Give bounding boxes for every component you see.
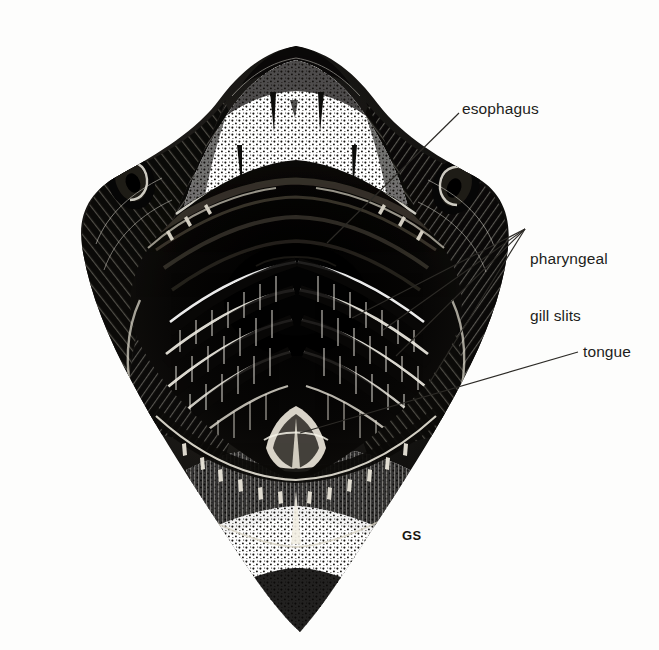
artist-signature: GS [402,528,422,543]
label-pharyngeal-gill-slits-line2: gill slits [530,306,608,325]
anatomical-figure: esophagus pharyngeal gill slits tongue G… [0,0,659,650]
shark-head [40,30,540,650]
label-pharyngeal-gill-slits: pharyngeal gill slits [530,211,608,363]
label-tongue: tongue [583,342,631,361]
label-esophagus: esophagus [462,99,539,118]
label-pharyngeal-gill-slits-line1: pharyngeal [530,249,608,268]
